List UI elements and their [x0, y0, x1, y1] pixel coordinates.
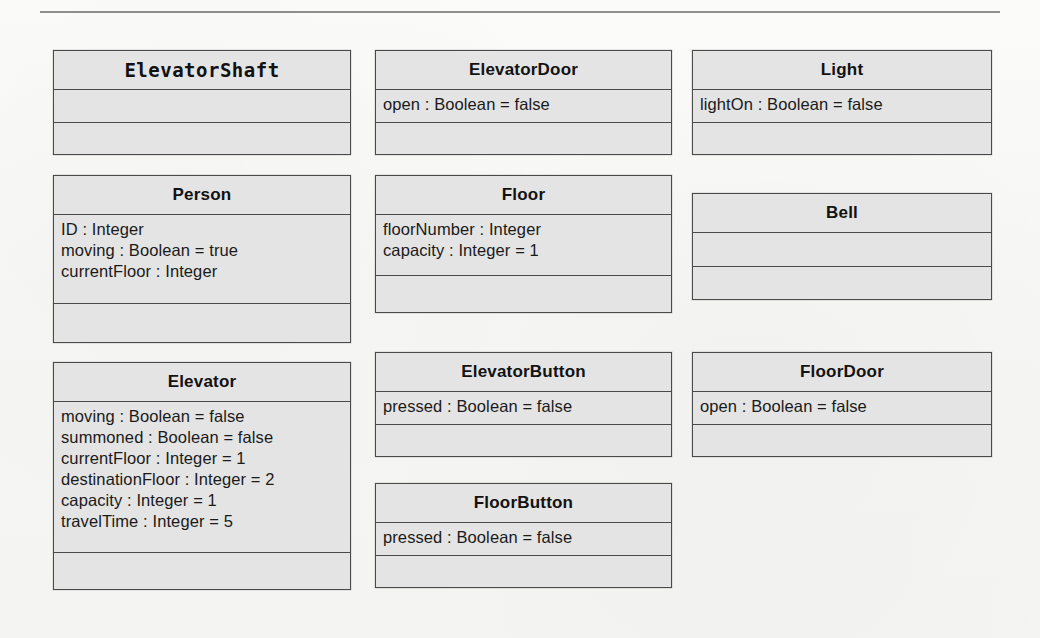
class-name-elevator: Elevator: [54, 363, 350, 401]
uml-class-elevator[interactable]: Elevatormoving : Boolean = falsesummoned…: [53, 362, 351, 590]
class-operations-light: [693, 122, 991, 154]
class-name-elevatordoor: ElevatorDoor: [376, 51, 671, 89]
class-attributes-elevatorbutton: pressed : Boolean = false: [376, 391, 671, 424]
page-header-rule: [40, 11, 1000, 13]
class-attributes-elevatorshaft: [54, 89, 350, 122]
attribute-line: moving : Boolean = false: [61, 406, 350, 427]
class-operations-person: [54, 303, 350, 342]
uml-class-elevatorbutton[interactable]: ElevatorButtonpressed : Boolean = false: [375, 352, 672, 457]
class-operations-elevator: [54, 552, 350, 589]
class-name-elevatorbutton: ElevatorButton: [376, 353, 671, 391]
attribute-line: pressed : Boolean = false: [383, 396, 671, 417]
attribute-line: currentFloor : Integer = 1: [61, 448, 350, 469]
class-attributes-floorbutton: pressed : Boolean = false: [376, 522, 671, 555]
attribute-line: currentFloor : Integer: [61, 261, 350, 282]
attribute-line: open : Boolean = false: [383, 94, 671, 115]
attribute-line: travelTime : Integer = 5: [61, 511, 350, 532]
uml-class-floorbutton[interactable]: FloorButtonpressed : Boolean = false: [375, 483, 672, 588]
attribute-line: open : Boolean = false: [700, 396, 991, 417]
class-operations-floor: [376, 275, 671, 312]
class-operations-elevatorbutton: [376, 424, 671, 456]
class-operations-floordoor: [693, 424, 991, 456]
uml-class-floor[interactable]: FloorfloorNumber : Integercapacity : Int…: [375, 175, 672, 313]
uml-class-person[interactable]: PersonID : Integermoving : Boolean = tru…: [53, 175, 351, 343]
attribute-line: moving : Boolean = true: [61, 240, 350, 261]
class-name-floorbutton: FloorButton: [376, 484, 671, 522]
uml-class-light[interactable]: LightlightOn : Boolean = false: [692, 50, 992, 155]
class-attributes-light: lightOn : Boolean = false: [693, 89, 991, 122]
class-name-floordoor: FloorDoor: [693, 353, 991, 391]
class-operations-elevatordoor: [376, 122, 671, 154]
class-attributes-floor: floorNumber : Integercapacity : Integer …: [376, 214, 671, 275]
uml-class-bell[interactable]: Bell: [692, 193, 992, 300]
uml-class-elevatordoor[interactable]: ElevatorDooropen : Boolean = false: [375, 50, 672, 155]
attribute-line: floorNumber : Integer: [383, 219, 671, 240]
attribute-line: destinationFloor : Integer = 2: [61, 469, 350, 490]
class-operations-elevatorshaft: [54, 122, 350, 154]
class-operations-bell: [693, 266, 991, 299]
uml-class-floordoor[interactable]: FloorDooropen : Boolean = false: [692, 352, 992, 457]
class-attributes-elevator: moving : Boolean = falsesummoned : Boole…: [54, 401, 350, 552]
attribute-line: pressed : Boolean = false: [383, 527, 671, 548]
attribute-line: lightOn : Boolean = false: [700, 94, 991, 115]
class-name-person: Person: [54, 176, 350, 214]
class-attributes-bell: [693, 232, 991, 266]
class-attributes-person: ID : Integermoving : Boolean = truecurre…: [54, 214, 350, 303]
class-attributes-floordoor: open : Boolean = false: [693, 391, 991, 424]
attribute-line: ID : Integer: [61, 219, 350, 240]
attribute-line: summoned : Boolean = false: [61, 427, 350, 448]
class-name-bell: Bell: [693, 194, 991, 232]
class-operations-floorbutton: [376, 555, 671, 587]
attribute-line: capacity : Integer = 1: [61, 490, 350, 511]
class-attributes-elevatordoor: open : Boolean = false: [376, 89, 671, 122]
class-name-floor: Floor: [376, 176, 671, 214]
class-name-light: Light: [693, 51, 991, 89]
uml-class-elevatorshaft[interactable]: ElevatorShaft: [53, 50, 351, 155]
class-name-elevatorshaft: ElevatorShaft: [54, 51, 350, 89]
attribute-line: capacity : Integer = 1: [383, 240, 671, 261]
